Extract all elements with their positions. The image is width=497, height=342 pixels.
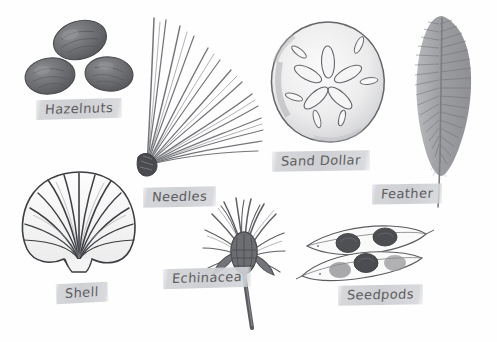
label-text: Shell	[65, 284, 99, 301]
label-sand-dollar: Sand Dollar	[272, 150, 370, 172]
pine-needles-icon	[130, 8, 265, 173]
label-text: Echinacea	[172, 269, 243, 286]
label-hazelnuts: Hazelnuts	[36, 98, 123, 120]
sand-dollar-icon	[266, 18, 390, 146]
label-echinacea: Echinacea	[163, 267, 252, 289]
illustration-canvas: Hazelnuts Needles Sand Dollar Feather Sh…	[0, 0, 497, 342]
echinacea-icon	[196, 196, 292, 331]
label-feather: Feather	[372, 183, 443, 204]
label-shell: Shell	[56, 282, 109, 305]
label-text: Seedpods	[346, 286, 414, 302]
hazelnuts-icon	[24, 18, 144, 100]
label-text: Sand Dollar	[280, 152, 361, 168]
feather-icon	[404, 10, 484, 210]
seedpods-icon	[300, 222, 430, 284]
label-text: Feather	[380, 186, 433, 202]
label-needles: Needles	[143, 186, 216, 207]
scallop-shell-icon	[18, 166, 142, 276]
label-text: Needles	[151, 189, 207, 205]
label-seedpods: Seedpods	[338, 284, 423, 305]
label-text: Hazelnuts	[45, 100, 114, 117]
